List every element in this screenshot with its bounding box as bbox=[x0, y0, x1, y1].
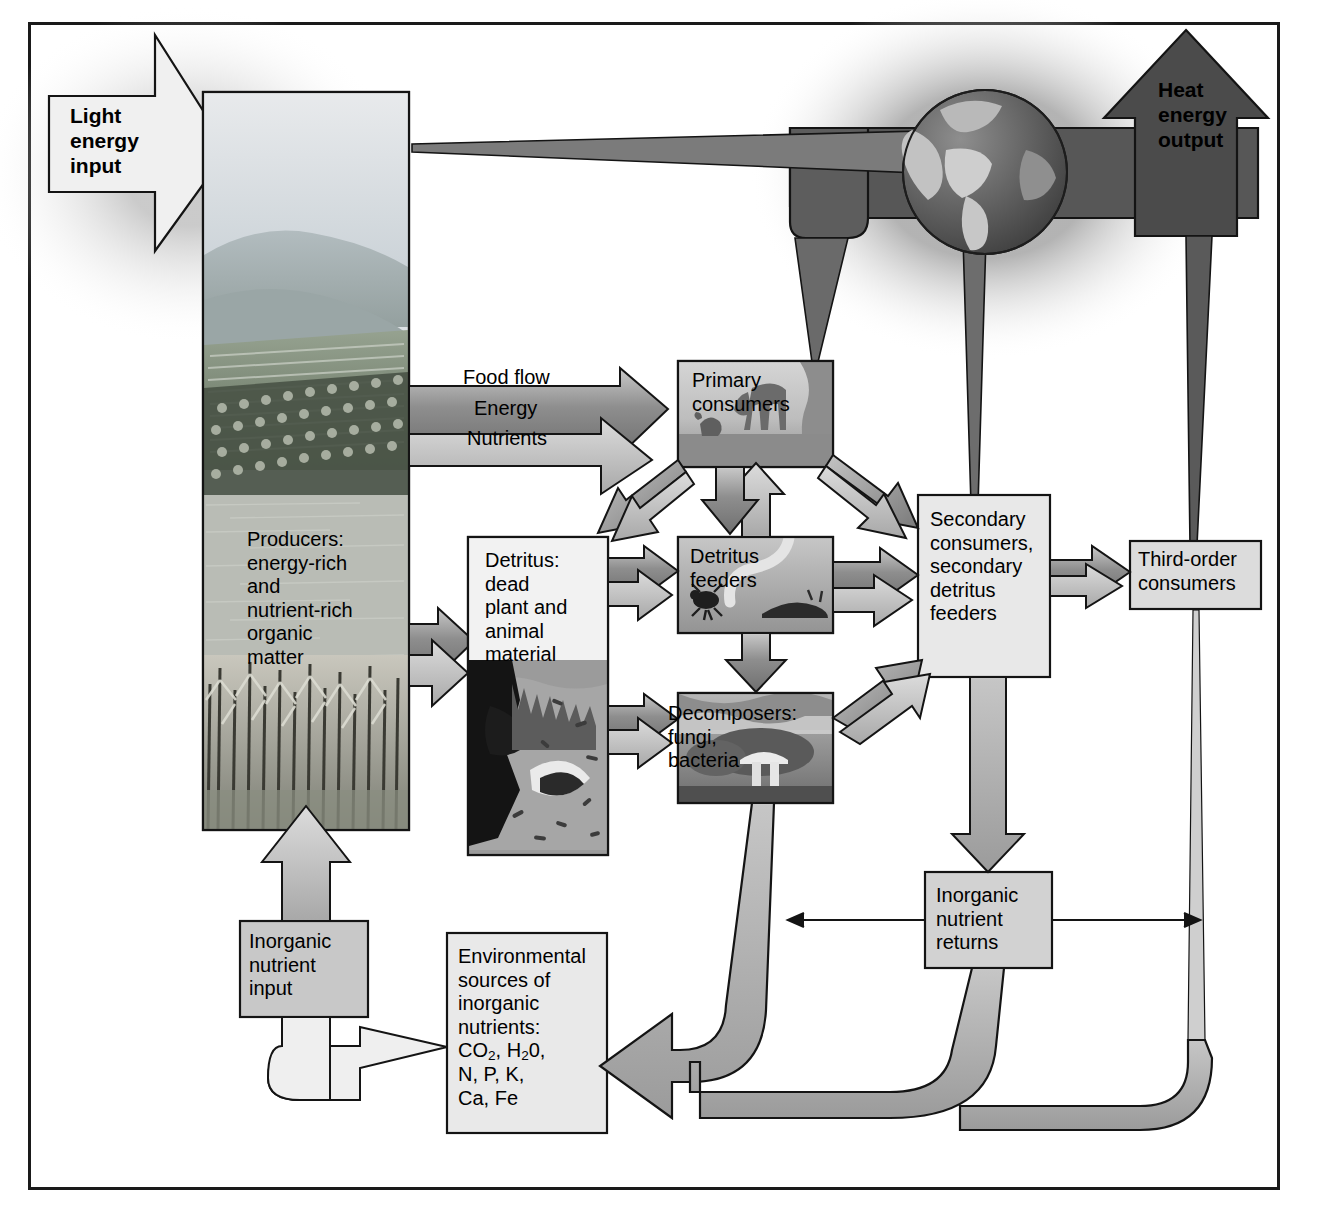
inorganic-nutrient-returns-label: Inorganic nutrient returns bbox=[936, 884, 1054, 955]
detritus-to-feeders-arrow bbox=[608, 546, 678, 620]
feeders-to-decomposers-arrow bbox=[726, 633, 786, 692]
detritus-label: Detritus: dead plant and animal material bbox=[485, 549, 605, 667]
secondary-to-returns-arrow bbox=[952, 677, 1024, 872]
decomposers-to-secondary-arrow bbox=[833, 660, 930, 744]
nutrient-recycling-loop bbox=[600, 803, 1212, 1130]
globe-icon bbox=[902, 90, 1067, 254]
formula-co2-sub: 2 bbox=[488, 1048, 496, 1063]
secondary-to-third-order-arrow bbox=[1050, 546, 1130, 608]
secondary-consumers-label: Secondary consumers, secondary detritus … bbox=[930, 508, 1054, 626]
formula-h2o-sub: 2 bbox=[521, 1048, 529, 1063]
primary-consumers-label: Primary consumers bbox=[692, 369, 832, 416]
decomposers-label: Decomposers: fungi, bacteria bbox=[668, 702, 838, 773]
diagram-canvas: Light energy input Heat energy output Fo… bbox=[0, 0, 1317, 1222]
producers-to-detritus-arrow bbox=[409, 608, 474, 706]
producers-box bbox=[203, 92, 409, 830]
primary-to-secondary-arrow bbox=[818, 455, 918, 538]
environmental-sources-formula-1: CO2, H20, bbox=[458, 1039, 608, 1064]
heat-energy-path bbox=[412, 30, 1290, 1040]
formula-co2-pre: CO bbox=[458, 1039, 488, 1061]
producers-label: Producers: energy-rich and nutrient-rich… bbox=[247, 528, 407, 670]
heat-energy-output-label: Heat energy output bbox=[1158, 78, 1268, 152]
environmental-sources-formula-3: Ca, Fe bbox=[458, 1087, 608, 1111]
environmental-sources-formula-2: N, P, K, bbox=[458, 1063, 608, 1087]
pipe-bend bbox=[268, 1017, 330, 1100]
inorganic-nutrient-input-label: Inorganic nutrient input bbox=[249, 930, 371, 1001]
detritus-feeders-label: Detritus feeders bbox=[690, 545, 820, 592]
environmental-sources-label: Environmental sources of inorganic nutri… bbox=[458, 945, 608, 1039]
energy-label: Energy bbox=[474, 397, 537, 421]
third-order-consumers-label: Third-order consumers bbox=[1138, 548, 1262, 595]
nutrients-label: Nutrients bbox=[467, 427, 547, 451]
light-energy-input-label: Light energy input bbox=[70, 104, 180, 178]
formula-h2o-post: 0, bbox=[529, 1039, 546, 1061]
formula-h2o-mid: , H bbox=[496, 1039, 522, 1061]
food-flow-label: Food flow bbox=[463, 366, 550, 390]
diagram-graphics bbox=[0, 0, 1317, 1222]
feeders-to-secondary-arrow bbox=[833, 548, 918, 626]
